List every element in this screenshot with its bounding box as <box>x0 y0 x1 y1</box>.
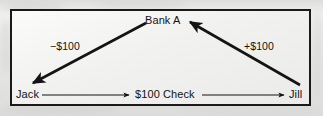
node-label-jill: Jill <box>289 89 302 100</box>
edge-bank-to-jack <box>33 23 146 83</box>
node-label-jack: Jack <box>16 89 39 100</box>
edge-label-debit: −$100 <box>50 41 80 52</box>
edge-label-credit: +$100 <box>244 41 274 52</box>
edge-jill-to-bank <box>190 22 300 85</box>
diagram-root: Bank A Jack $100 Check Jill −$100 +$100 <box>0 0 323 116</box>
node-label-check: $100 Check <box>135 89 195 100</box>
node-label-bank-a: Bank A <box>145 15 180 26</box>
